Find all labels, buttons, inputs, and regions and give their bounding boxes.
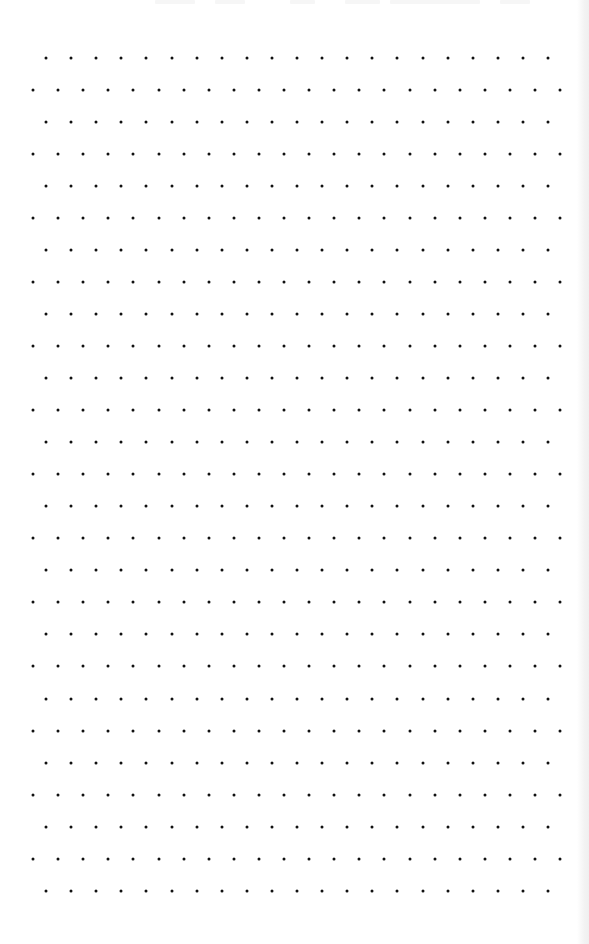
grid-dot	[82, 665, 85, 668]
grid-dot	[220, 569, 223, 572]
dot-grid	[0, 0, 589, 944]
grid-dot	[508, 280, 511, 283]
grid-dot	[371, 761, 374, 764]
grid-dot	[446, 569, 449, 572]
grid-dot	[257, 152, 260, 155]
grid-dot	[107, 88, 110, 91]
grid-dot	[534, 152, 537, 155]
grid-dot	[70, 184, 73, 187]
grid-dot	[559, 152, 562, 155]
grid-dot	[534, 665, 537, 668]
grid-dot	[145, 312, 148, 315]
grid-dot	[421, 377, 424, 380]
grid-dot	[321, 569, 324, 572]
grid-dot	[458, 152, 461, 155]
grid-dot	[433, 793, 436, 796]
grid-dot	[358, 793, 361, 796]
grid-dot	[308, 152, 311, 155]
grid-dot	[333, 793, 336, 796]
grid-dot	[145, 697, 148, 700]
grid-dot	[45, 697, 48, 700]
grid-dot	[446, 761, 449, 764]
grid-dot	[45, 377, 48, 380]
grid-dot	[433, 601, 436, 604]
grid-dot	[308, 280, 311, 283]
grid-dot	[270, 377, 273, 380]
grid-dot	[195, 312, 198, 315]
grid-dot	[547, 825, 550, 828]
grid-dot	[396, 184, 399, 187]
grid-dot	[245, 248, 248, 251]
grid-dot	[559, 280, 562, 283]
grid-dot	[245, 377, 248, 380]
grid-dot	[559, 216, 562, 219]
grid-dot	[346, 633, 349, 636]
grid-dot	[296, 312, 299, 315]
grid-dot	[283, 88, 286, 91]
grid-dot	[383, 216, 386, 219]
grid-dot	[521, 697, 524, 700]
grid-dot	[207, 88, 210, 91]
grid-dot	[207, 665, 210, 668]
grid-dot	[132, 216, 135, 219]
grid-dot	[82, 793, 85, 796]
grid-dot	[245, 761, 248, 764]
grid-dot	[220, 56, 223, 59]
grid-dot	[220, 825, 223, 828]
grid-dot	[508, 409, 511, 412]
grid-dot	[559, 88, 562, 91]
grid-dot	[383, 152, 386, 155]
grid-dot	[321, 889, 324, 892]
grid-dot	[321, 633, 324, 636]
grid-dot	[182, 344, 185, 347]
grid-dot	[396, 56, 399, 59]
grid-dot	[358, 601, 361, 604]
grid-dot	[496, 505, 499, 508]
grid-dot	[32, 344, 35, 347]
grid-dot	[283, 857, 286, 860]
grid-dot	[296, 248, 299, 251]
grid-dot	[195, 56, 198, 59]
grid-dot	[283, 601, 286, 604]
grid-dot	[483, 88, 486, 91]
grid-dot	[70, 761, 73, 764]
grid-dot	[270, 761, 273, 764]
grid-dot	[458, 473, 461, 476]
grid-dot	[333, 729, 336, 732]
grid-dot	[471, 120, 474, 123]
grid-dot	[396, 120, 399, 123]
grid-dot	[496, 825, 499, 828]
grid-dot	[245, 569, 248, 572]
grid-dot	[496, 312, 499, 315]
grid-dot	[232, 793, 235, 796]
grid-dot	[534, 793, 537, 796]
grid-dot	[32, 665, 35, 668]
grid-dot	[220, 889, 223, 892]
grid-dot	[321, 120, 324, 123]
grid-dot	[145, 825, 148, 828]
grid-dot	[95, 248, 98, 251]
grid-dot	[170, 825, 173, 828]
grid-dot	[471, 633, 474, 636]
grid-dot	[483, 473, 486, 476]
grid-dot	[433, 152, 436, 155]
grid-dot	[132, 665, 135, 668]
grid-dot	[270, 56, 273, 59]
grid-dot	[232, 409, 235, 412]
grid-dot	[70, 825, 73, 828]
grid-dot	[446, 889, 449, 892]
grid-dot	[547, 441, 550, 444]
grid-dot	[45, 184, 48, 187]
grid-dot	[358, 665, 361, 668]
grid-dot	[232, 344, 235, 347]
grid-dot	[433, 344, 436, 347]
grid-dot	[508, 857, 511, 860]
grid-dot	[496, 441, 499, 444]
grid-dot	[70, 248, 73, 251]
grid-dot	[346, 697, 349, 700]
grid-dot	[333, 280, 336, 283]
grid-dot	[433, 280, 436, 283]
grid-dot	[483, 152, 486, 155]
grid-dot	[57, 409, 60, 412]
grid-dot	[257, 280, 260, 283]
